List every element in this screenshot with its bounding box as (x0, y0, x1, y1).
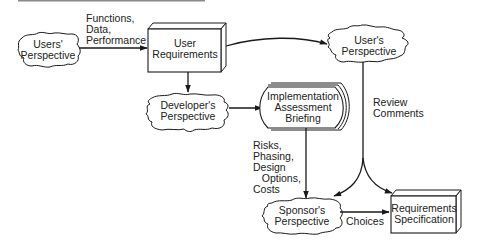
edge-label-risks: Risks, Phasing, Design Options, Costs (253, 140, 301, 195)
edge-requirements-to-user-perspective (226, 38, 327, 46)
edge-review-to-spec (363, 158, 392, 193)
users-perspective-label: Users' Perspective (21, 39, 76, 61)
user-s-perspective-label: User's Perspective (342, 35, 397, 57)
edge-label-functions: Functions, Data, Performance (86, 13, 146, 46)
requirements-specification-label: Requirements Specification (391, 203, 456, 225)
edge-review-to-sponsor (334, 158, 363, 196)
implementation-briefing-label: Implementation Assessment Briefing (267, 91, 339, 124)
edge-label-review: Review Comments (373, 97, 424, 119)
user-requirements-label: User Requirements (152, 38, 217, 60)
sponsors-perspective-label: Sponsor's Perspective (275, 205, 330, 227)
edge-label-choices: Choices (346, 216, 384, 227)
developers-perspective-label: Developer's Perspective (160, 100, 215, 122)
